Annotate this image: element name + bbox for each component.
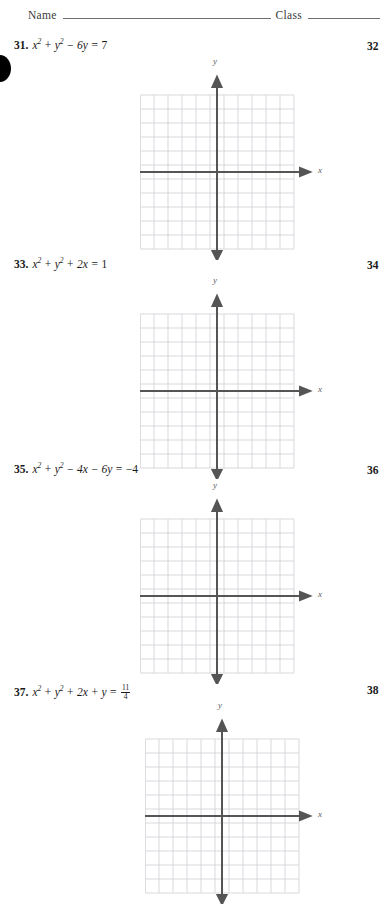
x-axis-arrow-right: [300, 168, 310, 176]
x-axis-label: x: [318, 809, 322, 819]
eq-term: y: [101, 686, 106, 698]
eq-rhs: 7: [101, 39, 107, 51]
fraction-11-over-4: 114: [121, 684, 130, 701]
eq-exponent: 2: [37, 461, 41, 470]
eq-operator: =: [116, 463, 123, 475]
equation-35: x2+y2−4x−6y=−4: [32, 463, 138, 475]
fraction-denominator: 4: [121, 693, 130, 701]
coordinate-plane-35: y x: [140, 492, 320, 684]
problem-statement-37: 37.x2+y2+2x+y=114: [14, 684, 131, 701]
y-axis-arrow-down: [213, 251, 222, 260]
eq-term: 4x: [77, 463, 88, 475]
problem-statement-35: 35.x2+y2−4x−6y=−4: [14, 464, 138, 476]
eq-exponent: 2: [37, 684, 41, 693]
y-axis-label: y: [213, 275, 217, 285]
eq-operator: −: [91, 463, 98, 475]
eq-operator: +: [67, 258, 74, 270]
problem-number-35: 35.: [14, 463, 28, 475]
y-axis-arrow-up: [213, 501, 222, 511]
coordinate-plane-svg: [140, 287, 320, 479]
coordinate-plane-svg: [140, 492, 320, 684]
y-axis-arrow-up: [213, 77, 222, 87]
name-label: Name: [28, 9, 57, 21]
problem-statement-33: 33.x2+y2+2x=1: [14, 259, 107, 271]
y-axis-arrow-down: [213, 675, 222, 684]
x-axis-arrow-right: [300, 812, 310, 820]
eq-operator: +: [91, 686, 98, 698]
y-axis-label: y: [218, 700, 222, 710]
y-axis-arrow-down: [218, 895, 227, 904]
eq-rhs: −4: [126, 463, 138, 475]
problem-number-37: 37.: [14, 686, 28, 698]
eq-exponent: 2: [60, 37, 64, 46]
eq-term: 6y: [77, 39, 88, 51]
x-axis-arrow-right: [300, 592, 310, 600]
eq-operator: +: [67, 686, 74, 698]
eq-exponent: 2: [60, 256, 64, 265]
coordinate-plane-37: y x: [145, 712, 325, 904]
coordinate-plane-33: y x: [140, 287, 320, 479]
eq-operator: =: [91, 39, 98, 51]
class-rule-line: [308, 18, 380, 19]
edge-marker-dot: [0, 55, 11, 82]
eq-operator: +: [45, 686, 52, 698]
equation-37: x2+y2+2x+y=114: [32, 686, 131, 698]
y-axis-arrow-down: [213, 470, 222, 479]
y-axis-arrow-up: [213, 296, 222, 306]
equation-31: x2+y2−6y=7: [32, 39, 107, 51]
coordinate-plane-31: y x: [140, 68, 320, 260]
problem-number-33: 33.: [14, 258, 28, 270]
problem-statement-31: 31.x2+y2−6y=7: [14, 40, 107, 52]
eq-rhs: 1: [101, 258, 107, 270]
y-axis-label: y: [213, 56, 217, 66]
eq-exponent: 2: [60, 461, 64, 470]
eq-operator: +: [45, 463, 52, 475]
eq-term: 2x: [77, 686, 88, 698]
class-label: Class: [276, 9, 302, 21]
coordinate-plane-svg: [140, 68, 320, 260]
eq-operator: +: [45, 258, 52, 270]
y-axis-arrow-up: [218, 721, 227, 731]
eq-operator: =: [110, 686, 117, 698]
eq-term: 6y: [101, 463, 112, 475]
eq-exponent: 2: [60, 684, 64, 693]
page-header: Name Class: [0, 9, 380, 31]
axes: [140, 296, 310, 479]
coordinate-plane-svg: [145, 712, 325, 904]
x-axis-label: x: [318, 165, 322, 175]
problem-number-36: 36: [367, 464, 380, 476]
problem-number-31: 31.: [14, 39, 28, 51]
eq-term: 2x: [77, 258, 88, 270]
axes: [140, 501, 310, 684]
eq-operator: −: [67, 463, 74, 475]
eq-operator: +: [45, 39, 52, 51]
x-axis-arrow-right: [300, 387, 310, 395]
eq-operator: −: [67, 39, 74, 51]
eq-operator: =: [91, 258, 98, 270]
name-rule-line: [63, 18, 271, 19]
y-axis-label: y: [213, 480, 217, 490]
eq-exponent: 2: [37, 256, 41, 265]
problem-number-32: 32: [367, 40, 380, 52]
axes: [140, 77, 310, 260]
problem-number-34: 34: [367, 259, 380, 271]
equation-33: x2+y2+2x=1: [32, 258, 107, 270]
x-axis-label: x: [318, 589, 322, 599]
eq-exponent: 2: [37, 37, 41, 46]
problem-number-38: 38: [367, 684, 380, 696]
x-axis-label: x: [318, 384, 322, 394]
